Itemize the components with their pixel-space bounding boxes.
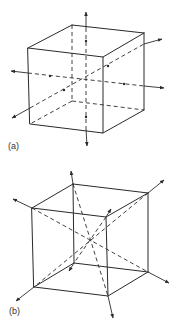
panel-b-label: (b) xyxy=(9,306,20,316)
panel-a-axes xyxy=(11,12,164,146)
panel-a-label: (a) xyxy=(8,141,19,151)
cube-symmetry-diagram xyxy=(0,0,178,334)
